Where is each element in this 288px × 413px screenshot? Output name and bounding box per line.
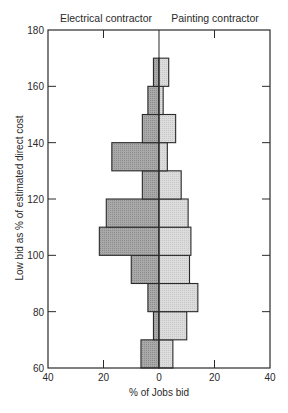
legend-left-label: Electrical contractor <box>60 12 153 24</box>
y-tick-label: 80 <box>33 307 45 318</box>
y-axis-label: Low bid as % of estimated direct cost <box>14 115 25 280</box>
painting-bar <box>159 199 188 227</box>
y-tick-label: 120 <box>27 194 44 205</box>
electrical-bar <box>148 284 159 312</box>
x-tick-label: 20 <box>209 372 221 383</box>
painting-bar <box>159 227 191 255</box>
legend-right-label: Painting contractor <box>171 12 259 24</box>
electrical-bar <box>112 143 159 171</box>
x-tick-label: 20 <box>98 372 110 383</box>
painting-bar <box>159 171 181 199</box>
y-tick-label: 180 <box>27 25 44 36</box>
y-tick-label: 100 <box>27 250 44 261</box>
y-tick-label: 140 <box>27 138 44 149</box>
painting-bar <box>159 143 167 171</box>
electrical-bar <box>153 312 159 340</box>
painting-bar <box>159 340 173 368</box>
electrical-bar <box>141 340 159 368</box>
electrical-bar <box>142 115 159 143</box>
painting-bar <box>159 58 169 86</box>
electrical-bar <box>106 199 159 227</box>
painting-bar <box>159 86 163 114</box>
electrical-bar <box>142 171 159 199</box>
y-tick-label: 60 <box>33 363 45 374</box>
electrical-bar <box>131 255 159 283</box>
back-to-back-histogram: 4020020406080100120140160180 Electrical … <box>0 0 288 413</box>
painting-bar <box>159 255 190 283</box>
y-tick-label: 160 <box>27 81 44 92</box>
x-tick-label: 40 <box>42 372 54 383</box>
painting-bar <box>159 284 198 312</box>
x-tick-label: 0 <box>156 372 162 383</box>
painting-bar <box>159 115 176 143</box>
x-tick-label: 40 <box>264 372 276 383</box>
painting-bar <box>159 312 187 340</box>
electrical-bar <box>148 86 159 114</box>
x-axis-label: % of Jobs bid <box>129 387 189 398</box>
plot-frame <box>48 30 270 368</box>
bars-group <box>99 58 198 368</box>
electrical-bar <box>99 227 159 255</box>
electrical-bar <box>153 58 159 86</box>
